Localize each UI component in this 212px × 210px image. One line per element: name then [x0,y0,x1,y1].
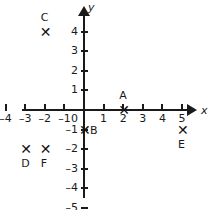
x-axis-label: x [201,104,208,117]
x-marker-icon: ✕ [20,142,32,156]
point-label-f: F [41,158,47,169]
y-tick-label: –4 [58,181,78,194]
x-axis-line [22,109,189,111]
y-tick [81,148,88,150]
x-marker-icon: ✕ [79,123,91,137]
x-marker-icon: ✕ [177,123,189,137]
y-axis-line [83,14,85,198]
y-tick-label: 4 [58,25,78,38]
y-tick-label: 3 [58,44,78,57]
x-tick [63,104,65,111]
y-axis-label: y [88,1,95,14]
point-label-a: A [119,90,127,101]
y-tick [81,50,88,52]
coordinate-plane: x y 0 –4–3–2–112345 4321–1–2–3–4–5 ✕A✕B✕… [0,0,212,210]
y-tick-label: 2 [58,64,78,77]
y-tick-label: –1 [58,123,78,136]
y-tick [81,31,88,33]
point-label-b: B [90,125,98,136]
y-tick-label: –5 [58,201,78,210]
x-tick-label: 4 [152,112,172,125]
x-marker-icon: ✕ [40,25,52,39]
x-tick-label: –2 [35,112,55,125]
x-tick-label: –4 [0,112,16,125]
x-tick [44,104,46,111]
x-marker-icon: ✕ [40,142,52,156]
y-tick-label: –2 [58,142,78,155]
y-tick-label: –3 [58,162,78,175]
point-label-e: E [178,139,185,150]
x-tick [142,104,144,111]
y-tick-label: 1 [58,83,78,96]
point-label-d: D [21,158,29,169]
x-tick [181,104,183,111]
x-tick-label: 3 [133,112,153,125]
y-tick [81,70,88,72]
y-tick [81,89,88,91]
x-tick-label: –3 [15,112,35,125]
x-tick [24,104,26,111]
y-tick [81,168,88,170]
x-marker-icon: ✕ [118,103,130,117]
y-tick [81,187,88,189]
point-label-c: C [41,12,49,23]
x-tick [103,104,105,111]
x-tick [161,104,163,111]
y-tick [81,207,88,209]
x-tick [5,104,7,111]
